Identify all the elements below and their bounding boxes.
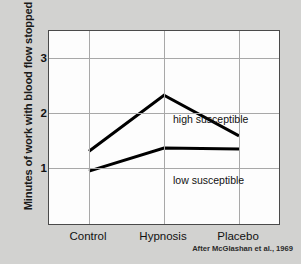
gridline-x-control: [89, 31, 90, 224]
series-lines: [49, 31, 281, 226]
series-label-low-susceptible: low susceptible: [173, 174, 244, 186]
gridline-x-placebo: [239, 31, 240, 224]
x-tick-label-hypnosis: Hypnosis: [123, 230, 203, 242]
plot-area: high susceptible low susceptible: [48, 30, 280, 225]
y-tick-label-1: 1: [31, 162, 47, 174]
x-tick-label-control: Control: [48, 230, 128, 242]
x-tick-label-placebo: Placebo: [198, 230, 278, 242]
y-axis-title: Minutes of work with blood flow stopped: [22, 1, 42, 211]
y-tick-label-3: 3: [31, 52, 47, 64]
gridline-x-hypnosis: [164, 31, 165, 224]
y-tick-label-2: 2: [31, 107, 47, 119]
series-label-high-susceptible: high susceptible: [173, 113, 248, 125]
figure-caption: After McGlashan et al., 1969: [0, 244, 293, 253]
chart-figure: Minutes of work with blood flow stopped …: [0, 0, 301, 264]
